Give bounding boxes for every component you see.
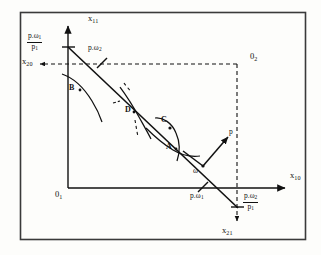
fraction-numerator: p.ω1 [27,32,42,43]
price-vector-arrow [203,137,228,166]
point-label-c: C [161,116,167,124]
axis-label-x21: x21 [222,226,233,236]
point-label-d: D [125,106,131,114]
axis-label-x20: x20 [22,57,33,67]
indifference-curve-d-dash-upper [124,83,131,92]
label-p-omega1: p.ω1 [190,192,204,201]
point-label-a: A [166,143,172,151]
label-price-vector-p: p [229,128,233,136]
figure-root: x11 x10 x20 x21 01 02 p.ω1 p1 p.ω2 p1 [0,0,321,255]
origin-label-o1: 01 [55,190,63,200]
label-endowment-omega: ω [193,167,198,175]
endowment-point-dot [201,164,204,167]
fraction-numerator: p.ω2 [243,192,258,203]
origin-label-o2: 02 [250,52,258,62]
indifference-curve-d-dash-lower [135,120,138,137]
indifference-curve-a [146,128,200,156]
indifference-curve-d-dash-left [113,101,120,103]
intercept-label-vertical-fraction: p.ω1 p1 [27,32,42,52]
point-dot-a [175,148,178,151]
budget-line [68,47,238,208]
figure-canvas [0,0,321,255]
fraction-denominator: p1 [243,203,258,213]
point-dot-b [79,89,82,92]
axis-label-x11: x11 [88,14,98,24]
point-label-b: B [69,84,74,92]
axis-label-x10: x10 [290,171,301,181]
fraction-denominator: p1 [27,43,42,53]
intercept-label-horizontal-fraction: p.ω2 p1 [243,192,258,212]
point-dot-c [168,126,171,129]
tick-p-omega2-upper [97,58,107,68]
label-p-omega2: p.ω2 [88,44,102,53]
point-dot-d [133,111,136,114]
